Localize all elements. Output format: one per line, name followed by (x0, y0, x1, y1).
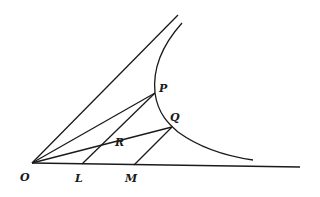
label-q: Q (170, 111, 180, 124)
label-m: M (124, 172, 138, 185)
label-o: O (20, 171, 30, 184)
baseline-ox (32, 163, 300, 167)
geometry-diagram: O L M P Q R (0, 0, 320, 197)
label-p: P (158, 82, 168, 95)
curve (155, 23, 253, 160)
label-r: R (114, 136, 124, 149)
line-qm (134, 127, 172, 165)
label-l: L (74, 172, 83, 185)
